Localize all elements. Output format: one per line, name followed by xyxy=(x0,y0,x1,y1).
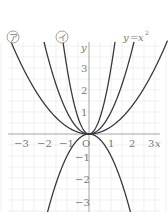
svg-text:x: x xyxy=(138,32,144,43)
label-i-text: イ xyxy=(58,33,67,43)
x-tick-label: −2 xyxy=(37,138,52,149)
label-a-text: ア xyxy=(9,33,18,43)
y-tick-label: 1 xyxy=(81,107,87,118)
label-i: イ xyxy=(56,31,68,43)
x-axis-label: x xyxy=(155,138,161,149)
parabola-chart: −3 −2 −1 O 1 2 3 x y 3 2 1 −1 −2 −3 ア イ … xyxy=(0,0,168,212)
x-tick-label: −3 xyxy=(14,138,29,149)
y-tick-label: 3 xyxy=(81,63,87,74)
x-tick-label: −1 xyxy=(59,138,74,149)
y-axis-label: y xyxy=(80,42,87,53)
y-tick-label: −2 xyxy=(75,174,90,185)
origin-label: O xyxy=(82,138,90,149)
x-tick-label: 1 xyxy=(108,138,114,149)
svg-text:y: y xyxy=(122,32,129,43)
y-tick-label: 2 xyxy=(81,85,87,96)
x-tick-label: 3 xyxy=(148,138,154,149)
svg-text:2: 2 xyxy=(145,29,149,36)
label-a: ア xyxy=(7,31,19,43)
y-tick-label: −1 xyxy=(75,152,90,163)
label-y-equals-x-squared: y = x 2 xyxy=(122,29,149,43)
y-tick-label: −3 xyxy=(75,197,90,208)
x-tick-label: 2 xyxy=(129,138,135,149)
